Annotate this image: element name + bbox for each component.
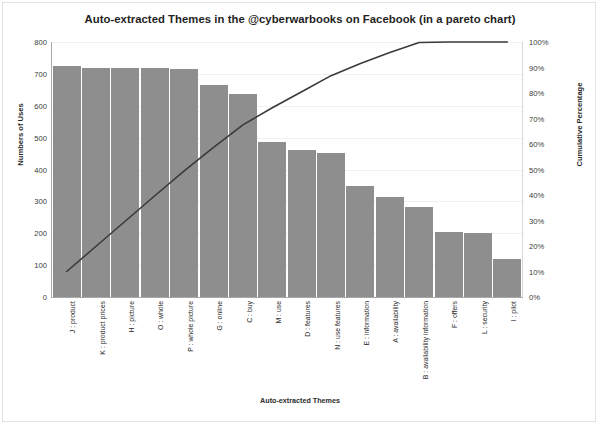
- y-axis-left-tick: 200: [14, 229, 47, 238]
- x-axis-tick-label: K : product prices: [99, 301, 106, 355]
- x-label-slot: M : use: [258, 299, 287, 391]
- y-axis-right-tick: 0%: [529, 293, 559, 302]
- x-axis-tick-label: F : offers: [451, 301, 458, 328]
- x-label-slot: H : picture: [111, 299, 140, 391]
- y-axis-right-tick: 10%: [529, 267, 559, 276]
- y-axis-right-tick: 40%: [529, 191, 559, 200]
- x-label-slot: B : availability information: [405, 299, 434, 391]
- y-axis-right-label: Cumulative Percentage: [575, 65, 584, 185]
- x-axis-tick-label: H : picture: [128, 301, 135, 332]
- x-axis-label: Auto-extracted Themes: [0, 396, 600, 405]
- x-axis-tick-label: D : features: [304, 301, 311, 337]
- y-axis-right-tick: 80%: [529, 89, 559, 98]
- x-label-slot: I : pilot: [493, 299, 522, 391]
- x-axis-tick-label: N : use features: [334, 301, 341, 350]
- x-label-slot: J : product: [52, 299, 81, 391]
- x-axis-line: [51, 297, 523, 298]
- y-axis-right-ticks: 0%10%20%30%40%50%60%70%80%90%100%: [529, 42, 559, 297]
- y-axis-right-tick: 50%: [529, 165, 559, 174]
- y-axis-right-tick: 60%: [529, 140, 559, 149]
- y-axis-left-tick: 300: [14, 197, 47, 206]
- x-axis-tick-label: G : online: [216, 301, 223, 331]
- x-label-slot: F : offers: [434, 299, 463, 391]
- x-label-slot: C : buy: [228, 299, 257, 391]
- x-axis-tick-label: M : use: [275, 301, 282, 324]
- x-label-slot: L : security: [463, 299, 492, 391]
- x-label-slot: O : whole: [140, 299, 169, 391]
- plot-area: [52, 42, 522, 297]
- y-axis-right-tick: 30%: [529, 216, 559, 225]
- cumulative-line-series: [52, 42, 522, 297]
- x-label-slot: A : availability: [375, 299, 404, 391]
- x-axis-tick-label: C : buy: [246, 301, 253, 323]
- x-axis-tick-label: A : availability: [392, 301, 399, 343]
- y-axis-left-line: [51, 42, 52, 297]
- y-axis-left-tick: 0: [14, 293, 47, 302]
- y-axis-right-tick: 90%: [529, 63, 559, 72]
- y-axis-right-tick: 20%: [529, 242, 559, 251]
- chart-page: Auto-extracted Themes in the @cyberwarbo…: [0, 0, 600, 425]
- y-axis-right-tick: 70%: [529, 114, 559, 123]
- y-axis-left-tick: 100: [14, 261, 47, 270]
- x-label-slot: G : online: [199, 299, 228, 391]
- y-axis-left-tick: 700: [14, 69, 47, 78]
- y-axis-right-tick: 100%: [529, 38, 559, 47]
- x-axis-category-labels: J : productK : product pricesH : picture…: [52, 299, 522, 391]
- x-axis-tick-label: L : security: [481, 301, 488, 334]
- x-axis-tick-label: I : pilot: [510, 301, 517, 321]
- x-label-slot: K : product prices: [81, 299, 110, 391]
- y-axis-right-line: [522, 42, 523, 297]
- x-axis-tick-label: P : whole picture: [187, 301, 194, 352]
- x-axis-tick-label: E : information: [363, 301, 370, 345]
- y-axis-left-label: Numbers of Uses: [16, 85, 25, 185]
- x-label-slot: N : use features: [316, 299, 345, 391]
- x-axis-tick-label: J : product: [69, 301, 76, 333]
- y-axis-left-tick: 800: [14, 38, 47, 47]
- chart-title: Auto-extracted Themes in the @cyberwarbo…: [0, 13, 600, 25]
- x-axis-tick-label: B : availability information: [422, 301, 429, 379]
- x-label-slot: P : whole picture: [170, 299, 199, 391]
- x-label-slot: D : features: [287, 299, 316, 391]
- x-label-slot: E : information: [346, 299, 375, 391]
- x-axis-tick-label: O : whole: [157, 301, 164, 330]
